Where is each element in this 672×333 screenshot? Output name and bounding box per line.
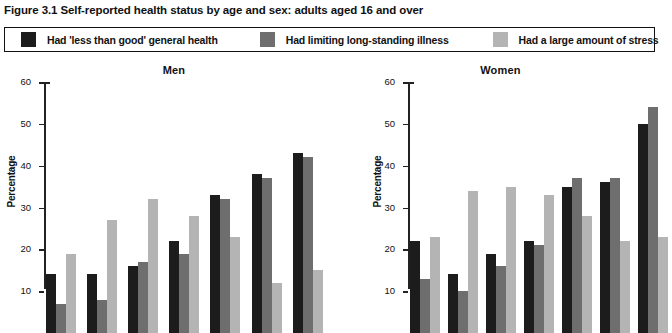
bar-groups-men <box>46 82 335 289</box>
bar <box>303 157 313 333</box>
bar <box>46 274 56 333</box>
bar <box>534 245 544 333</box>
bar-group <box>169 82 210 289</box>
bar <box>610 178 620 333</box>
y-tick-label-40: 40 <box>20 161 31 171</box>
bar-group <box>87 82 128 289</box>
y-tick-label-60: 60 <box>384 77 395 87</box>
bar <box>496 266 506 333</box>
bar-group <box>46 82 87 289</box>
y-tick-10: 10 <box>403 291 408 293</box>
bar <box>658 237 668 333</box>
y-tick-label-30: 30 <box>20 203 31 213</box>
y-tick-40: 40 <box>403 166 408 168</box>
bar <box>97 300 107 333</box>
chart-panel-women: Women Percentage 605040302010 <box>336 58 659 289</box>
bar <box>66 254 76 333</box>
bar-group <box>293 82 334 289</box>
legend-swatch-icon-0 <box>21 32 36 47</box>
bar <box>544 195 554 333</box>
bar <box>620 241 630 333</box>
legend: Had 'less than good' general health Had … <box>4 27 655 52</box>
bar-group <box>410 82 448 289</box>
bar <box>189 216 199 333</box>
legend-item-less-than-good-health: Had 'less than good' general health <box>21 32 218 47</box>
bar <box>220 199 230 333</box>
bar <box>313 270 323 333</box>
bar <box>600 182 610 333</box>
y-tick-label-20: 20 <box>20 245 31 255</box>
y-tick-10: 10 <box>39 291 44 293</box>
y-tick-30: 30 <box>403 208 408 210</box>
bar <box>486 254 496 333</box>
bar-group-spacer <box>240 288 248 289</box>
y-axis-title-men: Percentage <box>6 147 17 217</box>
bar <box>138 262 148 333</box>
plot-area-women: 605040302010 <box>408 82 656 289</box>
y-axis-title-women: Percentage <box>372 147 383 217</box>
bar-group <box>252 82 293 289</box>
y-tick-label-10: 10 <box>384 286 395 296</box>
y-tick-label-60: 60 <box>20 77 31 87</box>
y-tick-40: 40 <box>39 166 44 168</box>
bar-group <box>128 82 169 289</box>
bar <box>410 241 420 333</box>
bar-group-spacer <box>554 288 562 289</box>
bar <box>272 283 282 333</box>
panel-title-men: Men <box>0 64 336 76</box>
panel-title-women: Women <box>336 64 659 76</box>
bar-group <box>448 82 486 289</box>
bar-group-spacer <box>323 288 331 289</box>
bar-group <box>486 82 524 289</box>
y-tick-50: 50 <box>403 124 408 126</box>
y-tick-label-50: 50 <box>20 119 31 129</box>
bar <box>562 187 572 333</box>
bar-group <box>600 82 638 289</box>
bar-group <box>210 82 251 289</box>
bar <box>230 237 240 333</box>
bar <box>87 274 97 333</box>
y-tick-label-40: 40 <box>384 161 395 171</box>
bar-group <box>562 82 600 289</box>
legend-swatch-icon-2 <box>493 32 508 47</box>
bar <box>56 304 66 333</box>
y-tick-30: 30 <box>39 208 44 210</box>
y-tick-50: 50 <box>39 124 44 126</box>
bar-group-spacer <box>76 288 84 289</box>
y-tick-label-20: 20 <box>384 245 395 255</box>
bar-group-spacer <box>117 288 125 289</box>
bar-group-spacer <box>478 288 486 289</box>
bar <box>638 124 648 333</box>
bar-group-spacer <box>282 288 290 289</box>
bar-group-spacer <box>592 288 600 289</box>
bar <box>582 216 592 333</box>
bar <box>468 191 478 333</box>
bar-group-spacer <box>630 288 638 289</box>
bar-group-spacer <box>158 288 166 289</box>
legend-label-1: Had limiting long-standing illness <box>286 34 449 46</box>
plot-area-men: 605040302010 <box>44 82 334 289</box>
legend-item-large-amount-of-stress: Had a large amount of stress <box>493 32 659 47</box>
bar <box>107 220 117 333</box>
bar-group-spacer <box>199 288 207 289</box>
bar <box>293 153 303 333</box>
y-tick-label-30: 30 <box>384 203 395 213</box>
bar <box>262 178 272 333</box>
legend-label-2: Had a large amount of stress <box>519 34 659 46</box>
bar <box>430 237 440 333</box>
legend-swatch-icon-1 <box>260 32 275 47</box>
y-tick-20: 20 <box>403 249 408 251</box>
chart-panel-men: Men Percentage 605040302010 <box>0 58 336 289</box>
bar <box>506 187 516 333</box>
bar <box>420 279 430 333</box>
bar <box>648 107 658 333</box>
bar-group-spacer <box>516 288 524 289</box>
y-tick-20: 20 <box>39 249 44 251</box>
bar <box>458 291 468 333</box>
bar <box>210 195 220 333</box>
bar <box>572 178 582 333</box>
bar <box>448 274 458 333</box>
bar <box>128 266 138 333</box>
bar-group <box>638 82 672 289</box>
bar-group-spacer <box>668 288 672 289</box>
